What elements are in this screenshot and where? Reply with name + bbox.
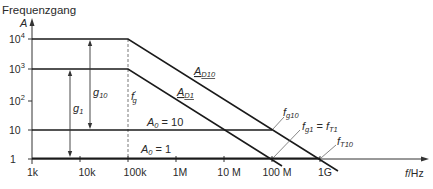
x-axis-arrow-icon	[421, 157, 429, 162]
ft10-label: fT10	[337, 135, 354, 149]
g10-label: g10	[93, 86, 108, 100]
x-tick-100k: 100k	[124, 166, 148, 178]
y-axis-label: A	[19, 17, 27, 29]
fg-prime-label: f'g	[131, 89, 138, 105]
fg10-leader	[273, 117, 284, 129]
g10-arrow-up-icon	[88, 40, 92, 46]
x-tick-100M: 100 M	[262, 166, 291, 178]
ad10-label: AD10	[193, 65, 216, 79]
y-tick-10000: 104	[9, 31, 25, 45]
fg1-ft1-label: fg1 = fT1	[302, 120, 338, 134]
y-tick-10: 10	[9, 124, 21, 136]
x-tick-10M: 10 M	[217, 166, 240, 178]
x-tick-10k: 10k	[79, 166, 97, 178]
x-tick-1M: 1M	[173, 166, 188, 178]
g10-arrow-down-icon	[88, 123, 92, 129]
y-axis-arrow-icon	[30, 18, 35, 26]
a0-10-label: A0 = 10	[146, 116, 183, 130]
y-ticks	[28, 39, 32, 130]
x-tick-1k: 1k	[27, 166, 39, 178]
a0-1-label: A0 = 1	[140, 143, 171, 157]
ad1-label: AD1	[176, 86, 194, 100]
ft10-leader	[321, 145, 336, 158]
x-tick-1G: 1G	[318, 166, 332, 178]
g1-label: g1	[73, 102, 83, 116]
y-tick-1000: 103	[9, 61, 25, 75]
chart-title: Frequenzgang	[2, 4, 76, 16]
g1-arrow-up-icon	[68, 70, 72, 76]
y-tick-1: 1	[10, 153, 16, 165]
g1-arrow-down-icon	[68, 151, 72, 157]
y-tick-100: 102	[9, 93, 25, 107]
frequency-response-chart: Frequenzgang A f/Hz 1 10 102 103 104 1k …	[0, 0, 433, 189]
x-axis-label: f/Hz	[405, 167, 424, 179]
fg10-label: fg10	[283, 106, 299, 120]
